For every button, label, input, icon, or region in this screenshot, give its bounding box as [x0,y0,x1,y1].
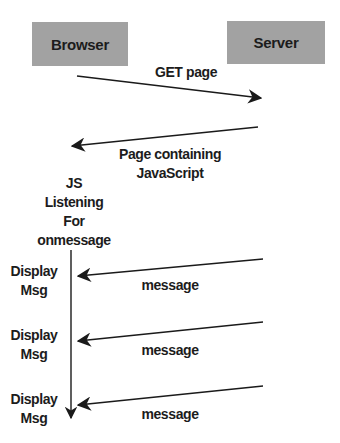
message-arrow-2 [78,322,263,341]
display-line: Display [8,262,60,281]
display-line: Display [8,326,60,345]
listener-line2: Listening [24,193,124,212]
get-page-label: GET page [146,63,226,82]
message-label-3: message [135,405,205,424]
display-msg-label-1: Display Msg [8,262,60,300]
display-msg-label-2: Display Msg [8,326,60,364]
message-arrow-3 [78,386,263,405]
msg-line: Msg [8,345,60,364]
msg-line: Msg [8,281,60,300]
message-label-2: message [135,341,205,360]
msg-line: Msg [8,409,60,428]
listener-line3: For [24,212,124,231]
page-response-line1: Page containing [110,145,230,164]
listener-line1: JS [24,174,124,193]
message-arrow-1 [78,259,263,276]
listener-label: JS Listening For onmessage [24,174,124,250]
display-msg-label-3: Display Msg [8,390,60,428]
page-response-arrow [72,127,258,146]
message-label-1: message [135,276,205,295]
display-line: Display [8,390,60,409]
listener-line4: onmessage [24,231,124,250]
page-response-label: Page containing JavaScript [110,145,230,183]
page-response-line2: JavaScript [110,164,230,183]
